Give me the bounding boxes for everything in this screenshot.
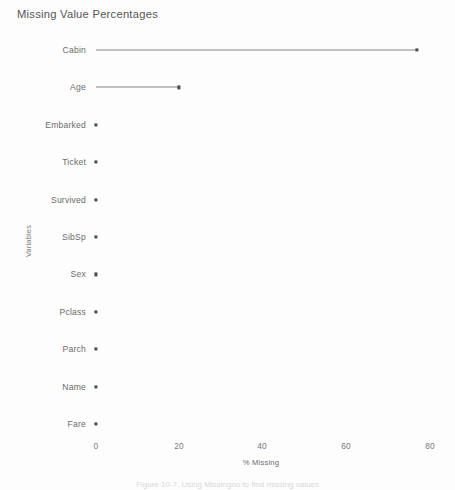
y-axis-tick-label: Fare bbox=[68, 419, 86, 429]
data-point-marker[interactable] bbox=[94, 385, 97, 388]
data-point-marker[interactable] bbox=[177, 86, 180, 89]
x-axis-label: % Missing bbox=[243, 458, 279, 467]
y-axis-tick-label: SibSp bbox=[62, 232, 86, 242]
y-axis-tick-label: Ticket bbox=[62, 157, 86, 167]
figure-caption: Figure 10-7. Using Missingno to find mis… bbox=[0, 481, 455, 490]
y-axis-tick-label: Survived bbox=[51, 195, 86, 205]
x-axis-tick-label: 40 bbox=[257, 441, 267, 451]
y-axis-tick-label: Embarked bbox=[45, 120, 86, 130]
x-axis-tick-label: 20 bbox=[174, 441, 184, 451]
data-point-marker[interactable] bbox=[94, 348, 97, 351]
y-axis-tick-label: Sex bbox=[71, 269, 86, 279]
plot-area: Cabin Age Embarked Ticket Survived SibSp bbox=[0, 0, 455, 455]
y-axis-tick-label: Cabin bbox=[63, 45, 86, 55]
data-point-marker[interactable] bbox=[94, 422, 97, 425]
y-axis-tick-label: Pclass bbox=[59, 307, 86, 317]
y-axis-tick-label: Parch bbox=[63, 344, 86, 354]
data-point-marker[interactable] bbox=[94, 161, 97, 164]
data-point-marker[interactable] bbox=[94, 310, 97, 313]
figure-page: Missing Value Percentages Cabin Age Emba… bbox=[0, 0, 455, 490]
data-point-marker[interactable] bbox=[94, 123, 97, 126]
y-axis-label: Variables bbox=[24, 225, 33, 257]
data-point-marker[interactable] bbox=[94, 273, 97, 276]
x-axis-tick-label: 80 bbox=[425, 441, 435, 451]
data-point-marker[interactable] bbox=[94, 235, 97, 238]
data-point-marker[interactable] bbox=[415, 48, 418, 51]
x-axis-tick-label: 0 bbox=[94, 441, 99, 451]
y-axis-tick-label: Age bbox=[70, 82, 86, 92]
figure-caption-text: Figure 10-7. Using Missingno to find mis… bbox=[136, 481, 319, 489]
x-axis-tick-label: 60 bbox=[341, 441, 351, 451]
lollipop-stem bbox=[96, 87, 179, 88]
lollipop-stem bbox=[96, 50, 417, 51]
data-point-marker[interactable] bbox=[94, 198, 97, 201]
y-axis-tick-label: Name bbox=[62, 382, 86, 392]
